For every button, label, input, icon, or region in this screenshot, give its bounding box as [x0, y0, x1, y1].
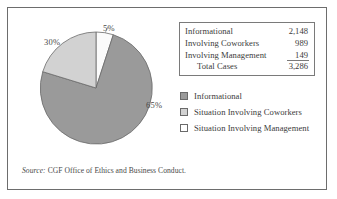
- pie-label-30-percent: 30%: [44, 37, 60, 47]
- row-label: Total Cases: [185, 61, 237, 73]
- row-value: 2,148: [289, 26, 308, 38]
- source-note: Source: CGF Office of Ethics and Busines…: [22, 166, 186, 175]
- case-counts-table: Informational 2,148 Involving Coworkers …: [179, 22, 315, 76]
- row-label: Informational: [185, 26, 233, 38]
- pie-chart: 5% 30% 65%: [20, 22, 180, 152]
- pie-label-5-percent: 5%: [103, 23, 115, 33]
- row-value: 989: [295, 38, 308, 50]
- chart-legend: Informational Situation Involving Cowork…: [180, 89, 320, 137]
- row-value: 3,286: [289, 61, 308, 73]
- table-row-total: Total Cases 3,286: [185, 61, 308, 73]
- table-row: Informational 2,148: [185, 26, 308, 38]
- legend-swatch-icon: [180, 92, 188, 100]
- source-text: CGF Office of Ethics and Business Conduc…: [46, 166, 186, 175]
- legend-item-management: Situation Involving Management: [180, 121, 320, 135]
- source-label: Source:: [22, 166, 46, 175]
- legend-item-label: Informational: [194, 91, 242, 101]
- legend-item-label: Situation Involving Coworkers: [194, 107, 302, 117]
- legend-swatch-icon: [180, 124, 188, 132]
- pie-label-65-percent: 65%: [146, 100, 162, 110]
- row-label: Involving Management: [185, 50, 266, 62]
- row-label: Involving Coworkers: [185, 38, 259, 50]
- legend-item-coworkers: Situation Involving Coworkers: [180, 105, 320, 119]
- figure-panel: 5% 30% 65% Informational 2,148 Involving…: [7, 7, 327, 190]
- legend-swatch-icon: [180, 108, 188, 116]
- legend-item-informational: Informational: [180, 89, 320, 103]
- legend-item-label: Situation Involving Management: [194, 123, 309, 133]
- table-row: Involving Coworkers 989: [185, 38, 308, 50]
